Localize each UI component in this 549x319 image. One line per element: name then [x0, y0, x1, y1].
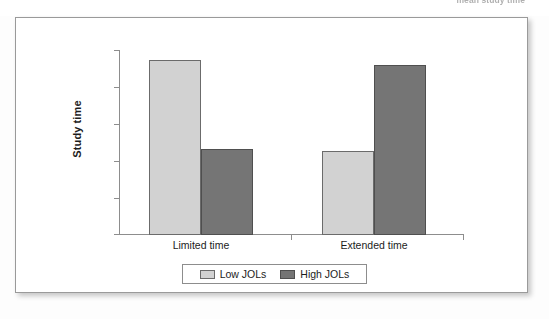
bar-limited-time-high-jols — [201, 149, 253, 235]
y-axis-tick — [114, 124, 120, 125]
y-axis-label: Study time — [71, 64, 83, 194]
bar-extended-time-high-jols — [374, 65, 426, 235]
bar-extended-time-low-jols — [322, 151, 374, 235]
x-axis-tick — [291, 234, 292, 240]
y-axis-tick — [114, 198, 120, 199]
legend-swatch-high-jols — [280, 270, 295, 279]
legend-entry-high-jols: High JOLs — [280, 268, 349, 280]
y-axis-line — [119, 50, 120, 235]
x-axis-tick — [463, 234, 464, 240]
bar-limited-time-low-jols — [149, 60, 201, 235]
legend-entry-low-jols: Low JOLs — [200, 268, 267, 280]
chart-legend: Low JOLs High JOLs — [182, 264, 367, 284]
y-axis-tick — [114, 50, 120, 51]
x-category-label-limited-time: Limited time — [141, 239, 261, 251]
x-category-label-extended-time: Extended time — [314, 239, 434, 251]
figure-caption-strip: mean study time — [0, 0, 549, 16]
figure-caption-text: mean study time — [456, 0, 525, 5]
legend-label-low-jols: Low JOLs — [220, 268, 267, 280]
figure-frame: Study time Limited time Extended time Lo… — [15, 17, 528, 293]
y-axis-tick — [114, 161, 120, 162]
legend-swatch-low-jols — [200, 270, 215, 279]
bar-chart-plot: Study time Limited time Extended time — [16, 18, 527, 292]
caption-fade-overlay — [0, 8, 549, 16]
legend-label-high-jols: High JOLs — [300, 268, 349, 280]
y-axis-tick — [114, 87, 120, 88]
